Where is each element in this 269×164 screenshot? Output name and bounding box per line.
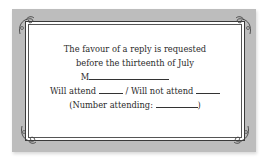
card-text: The favour of a reply is requested befor… [25, 42, 245, 112]
name-line: M [25, 70, 245, 84]
number-line: (Number attending: ) [25, 98, 245, 112]
flourish-bottom-left-icon [18, 124, 40, 146]
attend-label: Will attend [50, 86, 96, 96]
not-attend-blank[interactable] [196, 85, 220, 94]
number-close: ) [198, 100, 201, 110]
attend-blank[interactable] [99, 85, 123, 94]
reply-request-line: The favour of a reply is requested [25, 42, 245, 56]
flourish-top-right-icon [232, 14, 254, 36]
number-label: (Number attending: [69, 100, 153, 110]
name-blank[interactable] [89, 71, 169, 80]
attendance-line: Will attend / Will not attend [25, 84, 245, 98]
not-attend-label: Will not attend [131, 86, 193, 96]
separator: / [125, 86, 128, 96]
flourish-bottom-right-icon [230, 124, 252, 146]
number-blank[interactable] [156, 99, 198, 108]
flourish-top-left-icon [16, 14, 38, 36]
deadline-line: before the thirteenth of July [25, 56, 245, 70]
name-prefix: M [81, 72, 90, 82]
